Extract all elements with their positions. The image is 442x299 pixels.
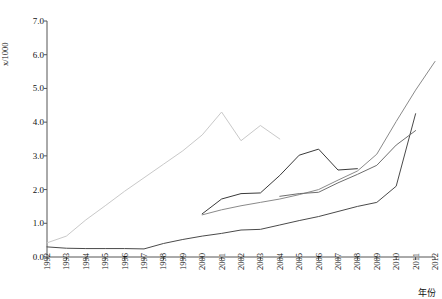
x-tick-label: 2001 [217, 253, 227, 293]
x-tick-label: 1999 [178, 253, 188, 293]
y-tick-label: 3.0 [18, 151, 44, 161]
y-axis-title: x/1000 [0, 6, 14, 66]
x-tick-label: 2007 [333, 253, 343, 293]
axis-lines [47, 21, 435, 257]
y-tick-label: 0.0 [18, 252, 44, 262]
axis-tick-marks [44, 21, 435, 260]
x-tick-label: 2006 [314, 253, 324, 293]
x-tick-label: 2010 [391, 253, 401, 293]
x-tick-label: 2005 [294, 253, 304, 293]
x-tick-label: 2008 [352, 253, 362, 293]
x-tick-label: 1994 [81, 253, 91, 293]
y-tick-label: 5.0 [18, 83, 44, 93]
y-tick-label: 2.0 [18, 185, 44, 195]
x-tick-label: 2003 [255, 253, 265, 293]
line-chart: x/1000 0.01.02.03.04.05.06.07.0 19921993… [0, 0, 442, 299]
y-tick-label: 1.0 [18, 218, 44, 228]
series-line-series-1 [47, 112, 280, 243]
x-tick-label: 2002 [236, 253, 246, 293]
x-tick-label: 1993 [61, 253, 71, 293]
x-tick-label: 1992 [42, 253, 52, 293]
x-tick-label: 1997 [139, 253, 149, 293]
y-axis-tick-labels: 0.01.02.03.04.05.06.07.0 [14, 0, 44, 299]
y-tick-label: 4.0 [18, 117, 44, 127]
x-tick-label: 2004 [275, 253, 285, 293]
x-tick-label: 2009 [372, 253, 382, 293]
x-tick-label: 2000 [197, 253, 207, 293]
y-tick-label: 6.0 [18, 50, 44, 60]
series-lines [47, 61, 435, 248]
y-tick-label: 7.0 [18, 16, 44, 26]
x-tick-label: 1995 [100, 253, 110, 293]
x-tick-label: 1998 [158, 253, 168, 293]
x-tick-label: 1996 [120, 253, 130, 293]
series-line-series-2 [47, 114, 416, 249]
x-axis-title: 年份 [418, 286, 436, 299]
